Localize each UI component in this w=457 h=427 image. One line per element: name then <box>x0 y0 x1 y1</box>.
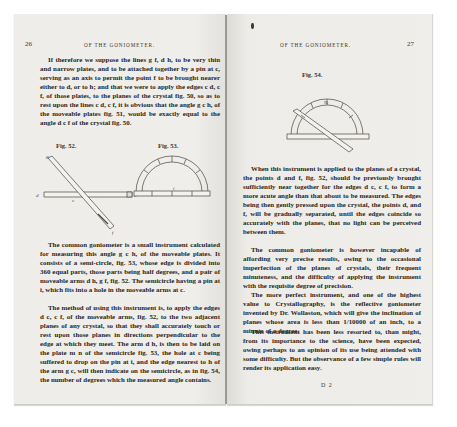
left-paragraph-1: If therefore we suppose the lines g f, d… <box>40 55 220 127</box>
running-head-right: OF THE GONIOMETER. <box>280 42 351 48</box>
fig-54-goniometer-diagram: 90 <box>281 85 381 155</box>
left-page: 26 OF THE GONIOMETER. If therefore we su… <box>14 14 226 405</box>
ink-blot <box>251 23 254 29</box>
svg-text:c: c <box>72 198 75 203</box>
fig-52-label: Fig. 52. <box>56 142 76 149</box>
book-spread: 26 OF THE GONIOMETER. If therefore we su… <box>14 14 432 406</box>
right-paragraph-1: When this instrument is applied to the p… <box>243 164 421 236</box>
left-paragraph-3: The method of using this instrument is, … <box>40 303 220 384</box>
fig-52-moveable-arms-diagram: g d c h f <box>28 154 138 234</box>
signature-mark: D 2 <box>321 382 333 388</box>
svg-text:f: f <box>112 230 114 235</box>
right-paragraph-2: The common goniometer is however incapab… <box>243 245 421 290</box>
fig-53-semicircle-diagram: i <box>132 152 212 197</box>
page-number-right: 27 <box>407 40 414 48</box>
running-head-left: OF THE GONIOMETER. <box>84 42 155 48</box>
fig-54-label: Fig. 54. <box>302 71 322 78</box>
svg-text:d: d <box>36 193 39 198</box>
svg-text:i: i <box>173 186 175 191</box>
svg-text:90: 90 <box>324 100 328 105</box>
left-paragraph-2: The common goniometer is a small instrum… <box>40 240 220 294</box>
fig-53-label: Fig. 53. <box>158 142 178 149</box>
right-paragraph-4: This instrument has been less resorted t… <box>243 327 421 372</box>
right-page: OF THE GONIOMETER. 27 Fig. 54. 90 When t… <box>227 14 433 405</box>
page-number-left: 26 <box>25 40 32 48</box>
